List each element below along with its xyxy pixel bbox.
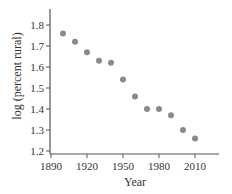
y-axis-label: log (percent rural)	[10, 32, 24, 119]
y-tick-label: 1.7	[30, 40, 44, 52]
data-point	[180, 127, 186, 133]
data-point	[132, 93, 138, 99]
y-tick-label: 1.5	[30, 82, 44, 94]
data-point	[168, 112, 174, 118]
x-tick-label: 1890	[40, 160, 63, 172]
data-point	[120, 77, 126, 83]
data-points	[60, 30, 198, 141]
x-tick-label: 1950	[112, 160, 135, 172]
axes: 1.21.31.41.51.61.71.81890192019501980201…	[30, 9, 219, 172]
data-point	[60, 30, 66, 36]
data-point	[144, 106, 150, 112]
data-point	[96, 58, 102, 64]
data-point	[72, 39, 78, 45]
data-point	[156, 106, 162, 112]
y-tick-label: 1.3	[30, 124, 44, 136]
x-tick-label: 1920	[76, 160, 99, 172]
y-tick-label: 1.6	[30, 61, 44, 73]
data-point	[84, 49, 90, 55]
y-tick-label: 1.4	[30, 103, 44, 115]
x-tick-label: 1980	[148, 160, 171, 172]
x-tick-label: 2010	[184, 160, 207, 172]
y-tick-label: 1.2	[30, 145, 44, 157]
y-tick-label: 1.8	[30, 19, 44, 31]
chart-canvas: 1.21.31.41.51.61.71.81890192019501980201…	[0, 0, 232, 194]
data-point	[192, 135, 198, 141]
data-point	[108, 60, 114, 66]
x-axis-label: Year	[124, 175, 146, 189]
scatter-chart: 1.21.31.41.51.61.71.81890192019501980201…	[0, 0, 232, 194]
